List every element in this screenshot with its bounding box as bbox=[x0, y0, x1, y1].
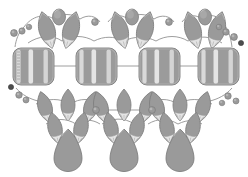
necklace-drawing bbox=[0, 0, 248, 177]
clasp-bottom-left bbox=[8, 84, 29, 103]
top-marquise-garland bbox=[34, 9, 230, 50]
illustration-canvas: Necklace design illustration Grayscale l… bbox=[0, 0, 248, 177]
clasp-bottom-right bbox=[219, 93, 239, 106]
panel-1 bbox=[13, 48, 54, 85]
panel-4 bbox=[198, 48, 239, 85]
panel-3 bbox=[139, 48, 180, 85]
clasp-top-left bbox=[11, 24, 32, 36]
panel-2 bbox=[76, 48, 117, 85]
